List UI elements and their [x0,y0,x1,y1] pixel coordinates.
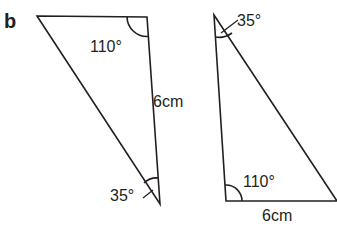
angle-pointer [221,20,238,33]
angle-label-110: 110° [90,38,122,55]
angle-arc-35 [215,33,232,37]
side-label-6cm: 6cm [153,93,183,110]
triangle-right: 35° 110° 6cm [214,12,337,224]
angle-pointer [143,190,153,198]
angle-label-35: 35° [110,187,134,204]
angle-label-35: 35° [237,12,261,29]
triangle-left: 110° 6cm 35° [37,16,183,204]
diagram-canvas: b 110° 6cm 35° 35° 110° 6cm [0,0,337,227]
angle-arc-110 [225,185,242,201]
side-label-6cm: 6cm [262,207,292,224]
angle-label-110: 110° [243,173,275,190]
part-label: b [4,10,16,32]
angle-arc-110 [127,17,148,37]
